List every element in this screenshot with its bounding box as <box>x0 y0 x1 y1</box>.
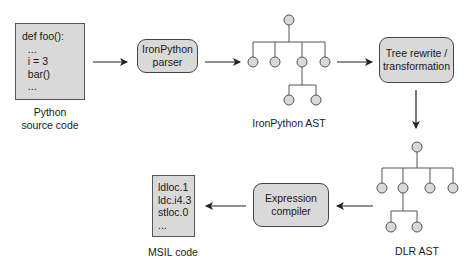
code-line: ... <box>22 43 84 56</box>
tree-node-icon <box>412 142 422 152</box>
code-line: stloc.0 <box>158 206 194 219</box>
caption-line: source code <box>10 119 90 132</box>
tree-node-icon <box>270 57 280 67</box>
tree-node-icon <box>425 183 435 193</box>
dlr-ast-caption: DLR AST <box>387 245 447 258</box>
code-line: ldloc.1 <box>158 181 194 194</box>
tree-node-icon <box>377 183 387 193</box>
tree-node-icon <box>284 15 294 25</box>
dlr-ast-tree <box>377 142 458 232</box>
tree-rewrite-box: Tree rewrite / transformation <box>379 37 454 83</box>
process-label: compiler <box>265 205 317 218</box>
tree-node-icon <box>386 222 396 232</box>
ironpython-parser-box: IronPython parser <box>137 39 198 73</box>
code-line: ... <box>158 219 194 232</box>
code-line: def foo(): <box>22 30 84 43</box>
code-line: ... <box>22 80 84 93</box>
expression-compiler-box: Expression compiler <box>253 183 329 227</box>
caption-line: Python <box>10 106 90 119</box>
tree-node-icon <box>311 95 321 105</box>
msil-caption: MSIL code <box>143 246 203 259</box>
tree-node-icon <box>412 222 422 232</box>
tree-node-icon <box>284 95 294 105</box>
msil-code-box: ldloc.1 ldc.i4.3 stloc.0 ... <box>152 175 195 237</box>
python-source-caption: Python source code <box>10 106 90 131</box>
process-label: transformation <box>383 60 450 73</box>
process-label: Expression <box>265 192 317 205</box>
ironpython-ast-caption: IronPython AST <box>244 117 334 130</box>
process-label: parser <box>142 56 193 69</box>
tree-node-icon <box>320 57 330 67</box>
code-line: i = 3 <box>22 55 84 68</box>
python-source-box: def foo(): ... i = 3 bar() ... <box>15 23 85 100</box>
code-line: ldc.i4.3 <box>158 194 194 207</box>
tree-node-icon <box>297 57 307 67</box>
code-line: bar() <box>22 68 84 81</box>
process-label: IronPython <box>142 43 193 56</box>
tree-node-icon <box>398 183 408 193</box>
tree-node-icon <box>248 57 258 67</box>
tree-node-icon <box>448 183 458 193</box>
ironpython-ast-tree <box>248 15 330 105</box>
process-label: Tree rewrite / <box>383 47 450 60</box>
